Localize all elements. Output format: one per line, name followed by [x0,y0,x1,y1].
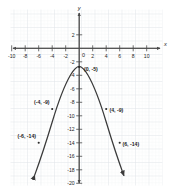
y-tick-label: 2 [72,32,75,38]
coordinate-plane: -10 -8 -6 -4 -2 2 4 6 8 10 2 -2 -4 -6 -8… [0,0,173,196]
x-tick-label: -8 [23,53,28,59]
y-tick-label: -20 [67,180,75,186]
y-tick-label: -16 [67,153,75,159]
y-tick-label: -6 [70,86,75,92]
y-tick-label: -10 [67,113,75,119]
y-tick-label: -8 [70,99,75,105]
x-tick-label: 8 [132,53,135,59]
point-label-right-mid: (4, -9) [110,107,124,113]
point-marker-vertex [78,66,80,68]
x-tick-label: -10 [8,53,16,59]
grid-background [11,10,163,186]
point-label-right-outer: (6, -14) [123,141,140,147]
y-tick-label: -18 [67,167,75,173]
x-tick-label: 2 [91,53,94,59]
x-tick-label: 4 [105,53,108,59]
x-tick-label: -6 [36,53,41,59]
point-label-left-outer: (-6, -14) [18,133,37,139]
point-label-vertex: (0, -5) [84,66,98,72]
point-marker-left-outer [38,142,40,144]
y-tick-label: -2 [70,59,75,65]
x-tick-label: -4 [50,53,55,59]
x-axis-label: x [163,41,167,47]
graph-figure: -10 -8 -6 -4 -2 2 4 6 8 10 2 -2 -4 -6 -8… [0,0,173,196]
point-marker-left-mid [51,108,53,110]
point-label-left-mid: (-4, -9) [34,99,50,105]
x-tick-label: 10 [144,53,150,59]
x-tick-label: -2 [63,53,68,59]
point-marker-right-outer [119,142,121,144]
y-tick-label: -14 [67,140,75,146]
point-marker-right-mid [105,108,107,110]
y-tick-label: -12 [67,126,75,132]
origin-label: 0 [82,52,85,58]
x-tick-label: 6 [118,53,121,59]
